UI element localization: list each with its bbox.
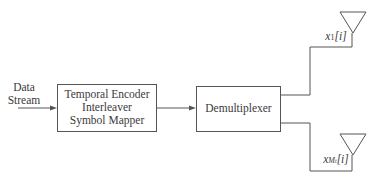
output-1-idx: [i] bbox=[334, 30, 346, 42]
output-label-1: x1[i] bbox=[316, 30, 356, 44]
demux-label: Demultiplexer bbox=[196, 102, 281, 115]
output-2-idx: [i] bbox=[337, 153, 349, 165]
output-2-sub: M bbox=[328, 156, 335, 165]
input-label: Data Stream bbox=[4, 81, 44, 107]
input-label-line1: Data bbox=[4, 81, 44, 94]
encoder-line3: Symbol Mapper bbox=[57, 114, 157, 127]
input-label-line2: Stream bbox=[4, 94, 44, 107]
encoder-line1: Temporal Encoder bbox=[57, 88, 157, 101]
output-label-2: xMt[i] bbox=[314, 153, 358, 168]
demux-arrowhead-icon bbox=[189, 106, 196, 111]
input-arrowhead-icon bbox=[50, 106, 57, 111]
encoder-label: Temporal Encoder Interleaver Symbol Mapp… bbox=[57, 88, 157, 127]
encoder-line2: Interleaver bbox=[57, 101, 157, 114]
antenna-icon-2 bbox=[340, 134, 366, 155]
